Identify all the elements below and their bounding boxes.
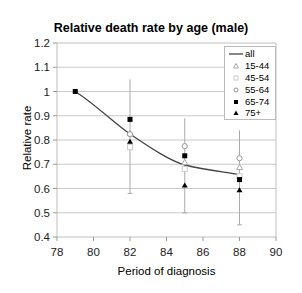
svg-text:0.8: 0.8	[34, 134, 50, 146]
x-axis-labels: 78 80 82 84 86 88 90	[51, 246, 283, 258]
svg-text:0.6: 0.6	[34, 183, 50, 195]
svg-text:0.4: 0.4	[34, 231, 51, 243]
chart-plot: 1.2 1.1 1 0.9 0.8 0.7 0.6 0.5 0.4 78 80 …	[0, 0, 302, 293]
svg-text:1.1: 1.1	[34, 61, 50, 73]
svg-text:86: 86	[197, 246, 210, 258]
svg-text:0.9: 0.9	[34, 110, 50, 122]
svg-text:82: 82	[124, 246, 137, 258]
svg-text:88: 88	[233, 246, 246, 258]
legend-item-45-54: 45-54	[225, 72, 275, 84]
open-triangle-icon	[229, 60, 243, 72]
x-axis-title: Period of diagnosis	[57, 265, 276, 277]
legend-item-15-44: 15-44	[225, 60, 275, 72]
line-icon	[229, 48, 243, 60]
y-axis-labels: 1.2 1.1 1 0.9 0.8 0.7 0.6 0.5 0.4	[34, 37, 51, 243]
y-axis-title: Relative rate	[21, 103, 33, 173]
svg-text:0.7: 0.7	[34, 158, 50, 170]
svg-text:84: 84	[160, 246, 173, 258]
svg-text:0.5: 0.5	[34, 207, 50, 219]
svg-text:80: 80	[87, 246, 100, 258]
svg-text:90: 90	[270, 246, 283, 258]
svg-text:1: 1	[44, 86, 50, 98]
svg-text:78: 78	[51, 246, 64, 258]
open-circle-icon	[229, 84, 243, 96]
marker-start	[73, 89, 78, 94]
legend-item-75-plus: 75+	[225, 107, 275, 119]
legend: all 15-44 45-54 55-64 65-74 75+	[224, 46, 276, 120]
legend-item-all: all	[225, 48, 275, 60]
legend-item-55-64: 55-64	[225, 84, 275, 96]
svg-text:1.2: 1.2	[34, 37, 50, 49]
filled-triangle-icon	[229, 107, 243, 119]
open-square-icon	[229, 72, 243, 84]
